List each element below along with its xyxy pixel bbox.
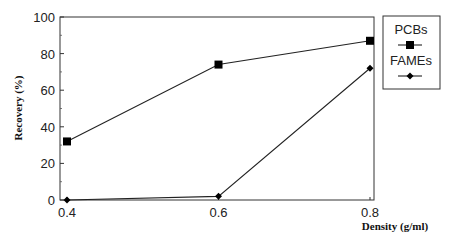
y-tick-label: 20 bbox=[41, 156, 55, 171]
series-fames bbox=[64, 65, 374, 204]
series-line bbox=[67, 41, 370, 142]
square-marker bbox=[366, 37, 374, 45]
series-pcbs bbox=[63, 37, 374, 146]
chart: 0204060801000.40.60.8Density (g/ml)Recov… bbox=[0, 0, 453, 243]
y-tick-label: 40 bbox=[41, 120, 55, 135]
x-tick-label: 0.6 bbox=[209, 205, 227, 220]
square-marker bbox=[215, 61, 223, 69]
legend-label-pcbs: PCBs bbox=[394, 22, 428, 37]
y-tick-label: 80 bbox=[41, 47, 55, 62]
x-tick-label: 0.8 bbox=[361, 205, 379, 220]
square-marker bbox=[63, 137, 71, 145]
y-axis-title: Recovery (%) bbox=[12, 75, 25, 140]
diamond-marker bbox=[64, 197, 71, 204]
x-axis-title: Density (g/ml) bbox=[362, 220, 429, 233]
x-tick-label: 0.4 bbox=[58, 205, 76, 220]
legend-label-fames: FAMEs bbox=[390, 53, 432, 68]
series-line bbox=[67, 68, 370, 200]
y-tick-label: 60 bbox=[41, 83, 55, 98]
y-tick-label: 0 bbox=[48, 193, 55, 208]
legend: PCBsFAMEs bbox=[383, 16, 440, 89]
legend-square-icon bbox=[406, 41, 414, 49]
y-tick-label: 100 bbox=[33, 10, 55, 25]
plot-frame bbox=[60, 17, 374, 200]
